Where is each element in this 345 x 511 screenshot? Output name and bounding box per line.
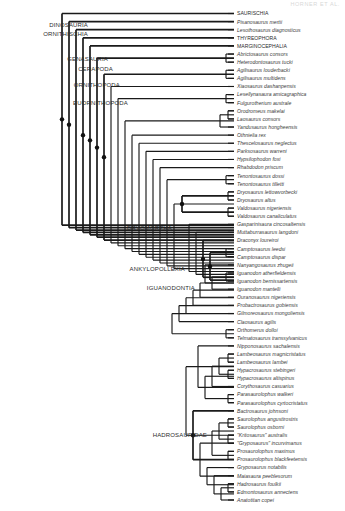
taxon-label: Camptosaurus leedsi xyxy=(237,246,286,252)
taxon-label: Maiasaura peeblesorum xyxy=(237,473,292,479)
genasauria-node-dot xyxy=(81,133,85,137)
taxon-label: Tenontosaurus tilletti xyxy=(237,181,285,187)
taxon-label: Prosaurolophus blackfeetensis xyxy=(237,456,307,462)
taxon-label: Othnielia rex xyxy=(237,132,266,138)
taxon-label: Hypsilophodon foxi xyxy=(237,156,281,162)
clade-label-ORNITHOPODA: ORNITHOPODA xyxy=(74,82,120,88)
clade-label-ORNITHISCHIA: ORNITHISCHIA xyxy=(43,31,88,37)
taxon-label: Claosaurus agilis xyxy=(237,319,277,325)
taxon-label: Nanyangosaurus zhugeii xyxy=(237,262,294,268)
taxon-label: Thescelosaurus neglectus xyxy=(237,140,297,146)
taxon-label: Pisanosaurus mertii xyxy=(237,19,283,25)
clade-label-IGUANODONTIA: IGUANODONTIA xyxy=(147,285,195,291)
taxon-label: Gilmoreosaurus mongoliensis xyxy=(237,310,305,316)
taxon-label: Bactrosaurus johnsoni xyxy=(237,408,289,414)
taxon-label: Camptosaurus dispar xyxy=(237,254,286,260)
figure-header: HORNER ET AL. xyxy=(290,1,340,7)
clade-label-DINOSAURIA: DINOSAURIA xyxy=(49,22,88,28)
taxon-label: Saurolophus osborni xyxy=(237,424,285,430)
clade-label-HADROSAURIDAE: HADROSAURIDAE xyxy=(153,432,207,438)
taxon-label: Gasparinisaura cincosaltensis xyxy=(237,221,306,227)
taxon-label: Hypacrosaurus stebingeri xyxy=(237,367,296,373)
taxon-label: Heterodontosaurus tucki xyxy=(237,59,294,65)
taxon-label: Abrictosaurus consors xyxy=(236,51,288,57)
ornithischia-node-dot xyxy=(67,122,71,126)
taxon-label: Prosaurolophus maximus xyxy=(237,448,295,454)
taxon-label: Lesellynasaura amicagraphica xyxy=(237,91,307,97)
taxon-label: Hypacrosaurus altispinus xyxy=(237,375,295,381)
taxon-label: Iguanodon bernissartensis xyxy=(237,278,298,284)
taxon-label: Valdosaurus nigeriensis xyxy=(237,205,292,211)
taxon-label: Orthomerus dolloi xyxy=(237,327,278,333)
taxon-label: Yandusaurus hongheensis xyxy=(237,124,298,130)
dinosauria-node-dot xyxy=(60,117,64,121)
taxon-label: Fulgurotherium australe xyxy=(237,100,291,106)
dryomorpha-node-dot xyxy=(180,202,184,206)
taxon-label: Lambeosaurus lambei xyxy=(237,359,288,365)
cladogram-figure: SAURISCHIAPisanosaurus mertiiLesothosaur… xyxy=(0,0,345,511)
taxon-label: Iguanodon mantelli xyxy=(237,286,281,292)
taxon-label: Muttaburrasaurus langdoni xyxy=(237,229,299,235)
taxon-label: Lambeosaurus magnicristatus xyxy=(237,351,306,357)
taxon-label: Corythosaurus casuarius xyxy=(237,383,294,389)
taxon-label: "Gryposaurus" incurvimanus xyxy=(237,440,302,446)
clade-label-CERAPODA: CERAPODA xyxy=(78,66,113,72)
ornithopoda-node-dot xyxy=(95,145,99,149)
taxon-label: Laosaurus consors xyxy=(237,116,281,122)
taxon-label: Draconyx loureiroi xyxy=(237,237,279,243)
taxon-label: Rhabdodon priscum xyxy=(237,164,283,170)
taxon-label: Edmontosaurus annectens xyxy=(237,489,298,495)
taxon-label: Lesothosaurus diagnosticus xyxy=(237,27,301,33)
taxon-label: Telmatosaurus transsylvanicus xyxy=(237,335,307,341)
taxon-label: Agilisaurus louderbacki xyxy=(236,67,291,73)
taxon-label: Saurolophus angustirostris xyxy=(237,416,298,422)
taxon-label: Dryosaurus lettowvorbecki xyxy=(237,189,298,195)
taxon-label: MARGINOCEPHALIA xyxy=(237,43,287,49)
clade-label-GENASAURIA: GENASAURIA xyxy=(67,56,108,62)
taxon-label: Probactrosaurus gobiensis xyxy=(237,302,298,308)
taxon-label: Agilisaurus multidens xyxy=(236,75,286,81)
taxon-label: Orodromeus makelai xyxy=(237,108,285,114)
taxon-label: Parasaurolophus walkeri xyxy=(237,391,294,397)
clade-label-ANKYLOPOLLEXIA: ANKYLOPOLLEXIA xyxy=(130,266,185,272)
taxon-label: Hadrosaurus foulkii xyxy=(237,481,282,487)
cerapoda-node-dot xyxy=(88,138,92,142)
taxon-label: Valdosaurus canaliculatus xyxy=(237,213,297,219)
taxon-label: Ouranosaurus nigeriensis xyxy=(237,294,296,300)
taxon-label: SAURISCHIA xyxy=(237,10,269,16)
iguanodontia-node-dot xyxy=(208,264,212,268)
taxon-label: Tenontosaurus dossi xyxy=(237,173,285,179)
taxon-label: Iguanodon atherfieldensis xyxy=(237,270,296,276)
taxon-label: Parksosaurus warreni xyxy=(237,148,288,154)
clade-label-DRYOMORPHA: DRYOMORPHA xyxy=(127,225,172,231)
taxon-label: Dryosaurus altus xyxy=(237,197,276,203)
taxon-label: "Kritosaurus" australis xyxy=(237,432,288,438)
clade-label-EUORNITHOPODA: EUORNITHOPODA xyxy=(73,100,128,106)
phylogenetic-tree-svg: SAURISCHIAPisanosaurus mertiiLesothosaur… xyxy=(0,0,345,511)
ankylopollexia-node-dot xyxy=(201,257,205,261)
taxon-label: Parasaurolophus cyrtocristatus xyxy=(237,400,308,406)
taxon-label: Xiaosaurus dashanpensis xyxy=(236,83,296,89)
taxon-label: Anatotitan copei xyxy=(236,497,275,503)
taxon-label: THYREOPHORA xyxy=(237,35,277,41)
euornithopoda-node-dot xyxy=(102,155,106,159)
taxon-label: Nipponosaurus sachalensis xyxy=(237,343,300,349)
taxon-label: Gryposaurus notabilis xyxy=(237,464,287,470)
